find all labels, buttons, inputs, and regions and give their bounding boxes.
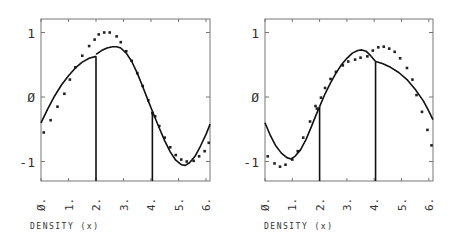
data-point bbox=[169, 146, 172, 149]
x-tick-label: 5. bbox=[173, 198, 186, 211]
data-point bbox=[279, 165, 282, 168]
data-point bbox=[266, 155, 269, 158]
data-point bbox=[174, 154, 177, 157]
data-point bbox=[309, 120, 312, 123]
x-tick-label: 2. bbox=[90, 198, 103, 211]
data-point bbox=[63, 92, 66, 95]
data-point bbox=[49, 119, 52, 122]
data-point bbox=[354, 58, 357, 61]
data-point bbox=[388, 47, 391, 50]
data-point bbox=[302, 136, 305, 139]
x-tick-label: 3. bbox=[341, 198, 354, 211]
data-point bbox=[382, 45, 385, 48]
data-point bbox=[42, 131, 45, 134]
data-point bbox=[273, 162, 276, 165]
data-point bbox=[88, 45, 91, 48]
plot-frame bbox=[41, 19, 210, 181]
data-point bbox=[377, 46, 380, 49]
y-tick-label: -1 bbox=[243, 155, 259, 170]
data-point bbox=[314, 105, 317, 108]
x-tick-label: 4. bbox=[368, 198, 381, 211]
x-tick-label: 1. bbox=[63, 198, 76, 211]
x-tick-label: Ø. bbox=[259, 198, 272, 211]
fit-curve bbox=[376, 62, 433, 120]
data-point bbox=[324, 87, 327, 90]
data-point bbox=[393, 51, 396, 54]
y-tick-label: 1 bbox=[251, 26, 259, 41]
data-point bbox=[207, 141, 210, 144]
data-point bbox=[415, 94, 418, 97]
fit-curve bbox=[96, 47, 152, 112]
x-tick-label: 1. bbox=[286, 198, 299, 211]
fit-curve bbox=[41, 56, 96, 122]
fit-curve bbox=[265, 107, 320, 159]
data-point bbox=[93, 38, 96, 41]
data-point bbox=[69, 78, 72, 81]
data-point bbox=[411, 78, 414, 81]
data-point bbox=[119, 41, 122, 44]
chart-canvas: 1Ø-1Ø.1.2.3.4.5.6. 1Ø-1Ø.1.2.3.4.5.6. bbox=[0, 0, 457, 245]
data-point bbox=[185, 160, 188, 163]
x-tick-label: 3. bbox=[118, 198, 131, 211]
left-x-axis-label: DENSITY (x) bbox=[30, 222, 99, 231]
x-tick-label: 2. bbox=[314, 198, 327, 211]
data-point bbox=[203, 150, 206, 153]
data-point bbox=[115, 35, 118, 38]
fit-curve bbox=[320, 50, 376, 107]
data-point bbox=[366, 55, 369, 58]
y-tick-label: 1 bbox=[27, 26, 35, 41]
data-point bbox=[180, 158, 183, 161]
data-point bbox=[359, 56, 362, 59]
data-point bbox=[97, 33, 100, 36]
data-point bbox=[198, 155, 201, 158]
data-point bbox=[56, 105, 59, 108]
y-tick-label: Ø bbox=[27, 90, 35, 105]
data-point bbox=[347, 60, 350, 63]
data-point bbox=[284, 163, 287, 166]
data-point bbox=[426, 129, 429, 132]
data-point bbox=[103, 31, 106, 34]
data-point bbox=[108, 31, 111, 34]
y-tick-label: Ø bbox=[251, 90, 259, 105]
data-point bbox=[81, 54, 84, 57]
data-point bbox=[421, 111, 424, 114]
data-point bbox=[430, 144, 433, 147]
y-tick-label: -1 bbox=[19, 155, 35, 170]
x-tick-label: 6. bbox=[200, 198, 213, 211]
x-tick-label: 6. bbox=[423, 198, 436, 211]
data-point bbox=[406, 67, 409, 70]
data-point bbox=[372, 49, 375, 52]
right-chart-panel: 1Ø-1Ø.1.2.3.4.5.6. bbox=[243, 19, 435, 211]
data-point bbox=[399, 57, 402, 60]
plot-frame bbox=[265, 19, 433, 181]
right-x-axis-label: DENSITY (x) bbox=[264, 222, 333, 231]
fit-curve bbox=[152, 111, 210, 165]
x-tick-label: 5. bbox=[396, 198, 409, 211]
data-point bbox=[320, 96, 323, 99]
left-chart-panel: 1Ø-1Ø.1.2.3.4.5.6. bbox=[19, 19, 213, 211]
x-tick-label: 4. bbox=[145, 198, 158, 211]
x-tick-label: Ø. bbox=[35, 198, 48, 211]
